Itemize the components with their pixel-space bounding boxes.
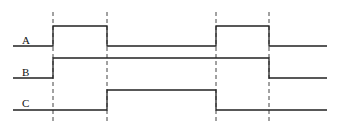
signal-label-b: B bbox=[22, 66, 29, 78]
signal-c-waveform bbox=[13, 90, 327, 110]
timing-diagram: A B C bbox=[0, 0, 338, 131]
signal-a-waveform bbox=[13, 26, 327, 46]
signal-label-a: A bbox=[22, 34, 30, 46]
signal-b-waveform bbox=[13, 58, 327, 78]
signal-label-c: C bbox=[22, 97, 29, 109]
